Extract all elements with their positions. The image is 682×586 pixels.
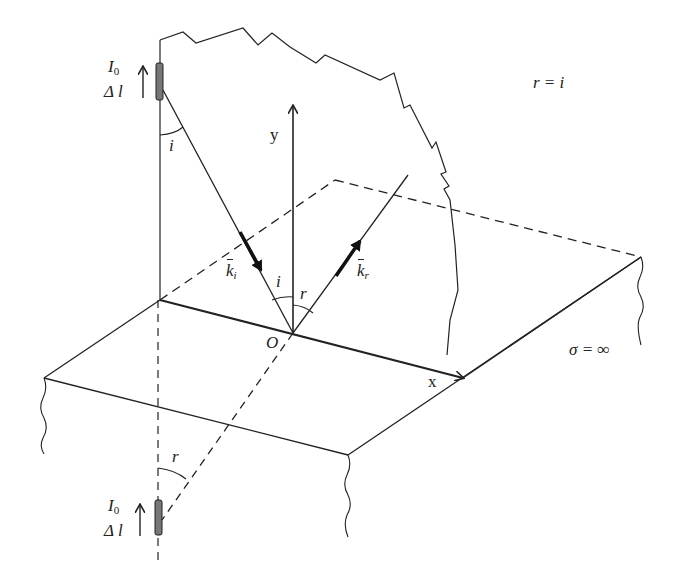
source-length-label: Δ l bbox=[104, 83, 123, 100]
conductivity-label: σ = ∞ bbox=[569, 341, 609, 358]
origin-label: O bbox=[266, 334, 278, 351]
source-current-label: I0 bbox=[108, 58, 119, 77]
incidence-plane-dashed bbox=[160, 180, 641, 300]
angle-i-label: i bbox=[276, 273, 281, 290]
image-current-label: I0 bbox=[108, 497, 119, 516]
image-antenna-element bbox=[155, 500, 162, 535]
image-ray bbox=[162, 333, 293, 520]
y-axis-label: y bbox=[270, 126, 279, 143]
x-axis-label: x bbox=[428, 373, 437, 390]
k-incident-label: ki bbox=[226, 262, 237, 281]
angle-r-label: r bbox=[300, 285, 307, 302]
angle-arc-incident bbox=[272, 297, 293, 300]
angle-arc-image bbox=[158, 468, 186, 479]
k-reflected-label: kr bbox=[357, 262, 369, 281]
wavefront-zigzag bbox=[160, 28, 458, 355]
angle-i-source-label: i bbox=[169, 137, 174, 154]
reflection-diagram: I0 Δ l I0 Δ l y x O i i r r ki kr r = i … bbox=[0, 0, 682, 586]
angle-arc-source bbox=[160, 127, 183, 135]
reflection-law-label: r = i bbox=[533, 74, 564, 91]
source-antenna-element bbox=[156, 63, 163, 100]
image-length-label: Δ l bbox=[104, 522, 123, 539]
diagram-canvas bbox=[0, 0, 682, 586]
conducting-plane bbox=[41, 257, 644, 537]
angle-r-image-label: r bbox=[172, 448, 179, 465]
